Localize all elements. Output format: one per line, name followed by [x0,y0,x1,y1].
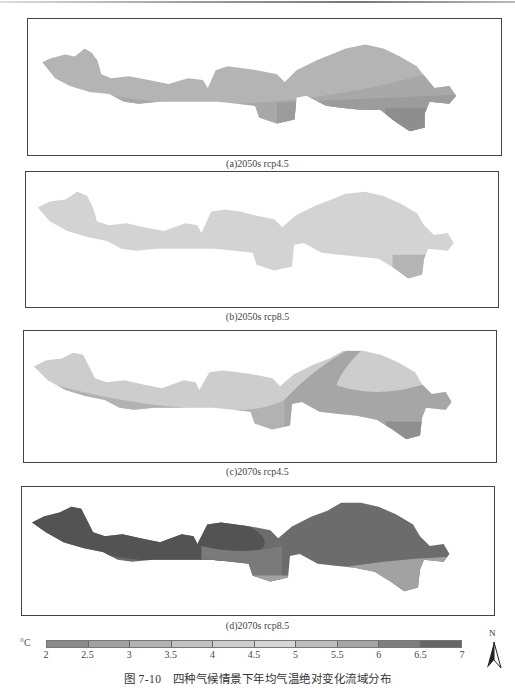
north-label: N [489,628,496,638]
legend-segment [338,641,380,647]
legend-segment [172,641,214,647]
basin-map-d [22,487,494,615]
legend-colorbar [46,640,462,648]
basin-map-c [24,331,496,462]
legend-unit: °C [20,637,31,648]
legend-tick: 5 [293,649,298,660]
panel-c-caption: (c)2070s rcp4.5 [0,466,515,477]
legend-tick: 7 [460,649,465,660]
basin-map-b [26,172,498,307]
legend-segment [421,641,462,647]
legend-tick: 4 [210,649,215,660]
panel-d-caption: (d)2070s rcp8.5 [0,620,515,631]
legend-segment [213,641,255,647]
north-arrow: N [484,628,504,672]
legend-tick: 5.5 [331,649,344,660]
legend-tick: 6.5 [414,649,427,660]
legend-tick: 6 [376,649,381,660]
color-legend: °C 2 2.5 3 3.5 4 4.5 5 5.5 6 6.5 7 [20,632,500,672]
panel-a-caption: (a)2050s rcp4.5 [0,158,515,169]
legend-tick: 3.5 [165,649,178,660]
map-panel-c [23,330,497,463]
legend-segment [255,641,297,647]
legend-segment [130,641,172,647]
panel-b-caption: (b)2050s rcp8.5 [0,311,515,322]
legend-tick: 2 [44,649,49,660]
legend-segment [379,641,421,647]
legend-segment [89,641,131,647]
map-panel-a [27,18,502,156]
legend-segment [47,641,89,647]
map-panel-d [21,486,495,616]
map-panel-b [25,171,499,308]
north-arrow-icon [484,640,504,670]
legend-ticks: 2 2.5 3 3.5 4 4.5 5 5.5 6 6.5 7 [46,649,462,661]
legend-tick: 3 [127,649,132,660]
legend-segment [296,641,338,647]
basin-map-a [28,19,501,155]
page-top-rule [0,1,515,3]
legend-tick: 4.5 [248,649,261,660]
legend-tick: 2.5 [81,649,94,660]
figure-title: 图 7-10 四种气候情景下年均气温绝对变化流域分布 [0,670,515,686]
